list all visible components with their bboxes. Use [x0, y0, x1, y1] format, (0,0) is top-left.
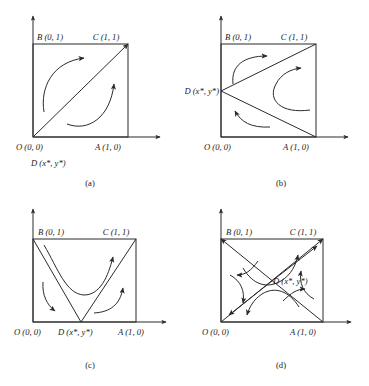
label-b-B: B (0, 1): [225, 32, 251, 42]
trajectory-d-left: [230, 275, 243, 303]
panel-c: B (0, 1) C (1, 1) O (0, 0) D (x*, y*) A …: [0, 193, 184, 386]
label-a-B: B (0, 1): [37, 32, 63, 42]
label-a-A: A (1, 0): [94, 142, 121, 152]
label-c-B: B (0, 1): [38, 227, 64, 237]
label-d-C: C (1, 1): [290, 227, 317, 237]
label-c-D: D (x*, y*): [57, 327, 93, 337]
label-d-B: B (0, 1): [226, 227, 252, 237]
label-d-O: O (0, 0): [202, 327, 229, 337]
figure-root: B (0, 1) C (1, 1) O (0, 0) A (1, 0) D (x…: [0, 0, 369, 386]
trajectory-c-left: [43, 282, 55, 311]
label-c-O: O (0, 0): [14, 327, 41, 337]
trajectory-b-middle: [273, 68, 310, 111]
separatrix-a-1: [33, 44, 128, 137]
label-a-O: O (0, 0): [16, 142, 43, 152]
panel-b: B (0, 1) C (1, 1) O (0, 0) A (1, 0) D (x…: [185, 0, 369, 193]
unit-square-b: [221, 44, 316, 137]
caption-b: (b): [276, 178, 286, 188]
label-c-A: A (1, 0): [117, 327, 144, 337]
trajectory-a-lower: [67, 84, 114, 126]
label-d-D: D (x*, y*): [272, 276, 308, 286]
panel-a: B (0, 1) C (1, 1) O (0, 0) A (1, 0) D (x…: [0, 0, 184, 193]
trajectory-d-bottomright: [283, 289, 305, 301]
caption-c: (c): [85, 360, 95, 370]
label-b-O: O (0, 0): [204, 142, 231, 152]
trajectory-b-top: [233, 56, 267, 84]
label-b-A: A (1, 0): [282, 142, 309, 152]
caption-d: (d): [276, 360, 286, 370]
panel-d: B (0, 1) C (1, 1) O (0, 0) A (1, 0) D (x…: [185, 193, 369, 386]
trajectory-b-bottom: [235, 111, 270, 127]
caption-a: (a): [85, 178, 95, 188]
label-c-C: C (1, 1): [103, 227, 130, 237]
unit-square-c: [33, 239, 136, 322]
separatrix-d-diag4: [229, 281, 272, 315]
trajectory-c-centre: [44, 245, 113, 295]
trajectory-c-right: [94, 288, 123, 313]
label-b-C: C (1, 1): [281, 32, 308, 42]
label-a-C: C (1, 1): [93, 32, 120, 42]
separatrix-b-lower: [221, 91, 316, 137]
trajectory-d-topleft: [237, 261, 258, 275]
label-b-D: D (x*, y*): [185, 86, 219, 96]
separatrix-b-upper: [221, 44, 316, 91]
label-a-D: D (x*, y*): [30, 158, 66, 168]
label-d-A: A (1, 0): [289, 327, 316, 337]
separatrix-c-left: [33, 239, 81, 322]
trajectory-a-upper: [43, 58, 84, 112]
